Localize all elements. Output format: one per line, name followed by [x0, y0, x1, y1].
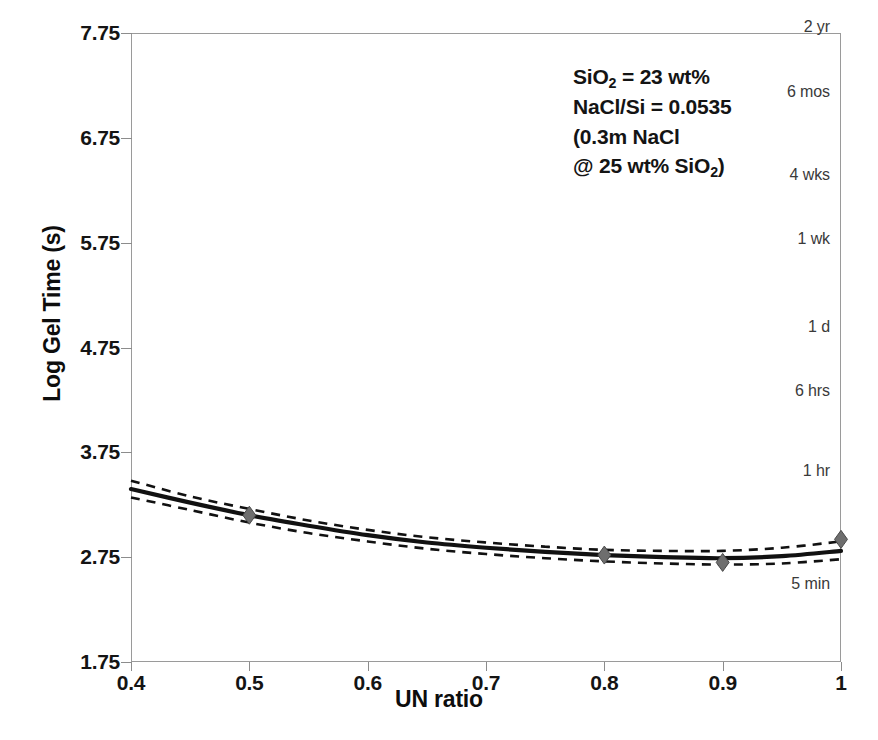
- x-tick-mark: [249, 662, 250, 671]
- data-point-markers: [243, 506, 848, 571]
- chart-figure: 1.752.753.754.755.756.757.75 Log Gel Tim…: [0, 0, 878, 740]
- y-tick-label-6.75: 6.75: [48, 127, 120, 148]
- data-point-marker: [835, 530, 848, 548]
- x-tick-mark: [131, 662, 132, 671]
- y-tick-mark: [121, 243, 132, 244]
- y-tick-label-2.75: 2.75: [48, 546, 120, 567]
- x-tick-mark: [368, 662, 369, 671]
- y-tick-label-1.75: 1.75: [48, 651, 120, 672]
- y-tick-mark: [121, 348, 132, 349]
- x-tick-mark: [723, 662, 724, 671]
- y-tick-label-7.75: 7.75: [48, 22, 120, 43]
- y-axis-title: Log Gel Time (s): [39, 184, 66, 444]
- x-tick-mark: [486, 662, 487, 671]
- y-tick-mark: [121, 33, 132, 34]
- y-tick-mark: [121, 452, 132, 453]
- fit-curve: [131, 489, 841, 558]
- y-tick-mark: [121, 138, 132, 139]
- y-tick-mark: [121, 557, 132, 558]
- x-tick-mark: [604, 662, 605, 671]
- plot-canvas: [131, 33, 841, 662]
- x-tick-mark: [841, 662, 842, 671]
- confidence-band-lower: [131, 497, 841, 564]
- confidence-band-upper: [131, 481, 841, 552]
- x-axis-title: UN ratio: [0, 686, 878, 713]
- y-tick-label-3.75: 3.75: [48, 441, 120, 462]
